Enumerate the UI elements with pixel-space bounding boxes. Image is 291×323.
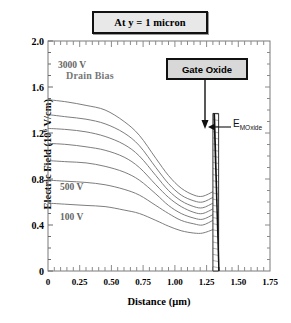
bottom-ticks: [54, 265, 263, 271]
gate-oxide-label: Gate Oxide: [182, 64, 232, 75]
figure-root: At y = 1 micron 2.0 1.6 1.2 0.8 0.4 0 0 …: [0, 0, 291, 323]
curve-label-100v: 100 V: [60, 212, 83, 222]
left-axis-ticks: [48, 41, 53, 271]
drain-bias-caption: Drain Bias: [66, 70, 114, 81]
plot-canvas: [0, 0, 291, 323]
gate-oxide-box: Gate Oxide: [166, 58, 248, 80]
gate-oxide-pointer-arrow: [202, 76, 209, 129]
curve-label-500v: 500 V: [60, 182, 83, 192]
emoxide-pointer-arrow: [208, 124, 231, 130]
top-minor-ticks: [54, 41, 263, 47]
emoxide-symbol: E: [233, 118, 240, 129]
right-axis-ticks: [265, 53, 270, 260]
curve-label-3000v: 3000 V: [58, 60, 86, 70]
field-curve-1500-v: [48, 143, 213, 213]
emoxide-label: EMOxide: [233, 118, 262, 131]
field-curve-2000-v: [48, 128, 213, 208]
emoxide-subscript: MOxide: [240, 124, 262, 131]
